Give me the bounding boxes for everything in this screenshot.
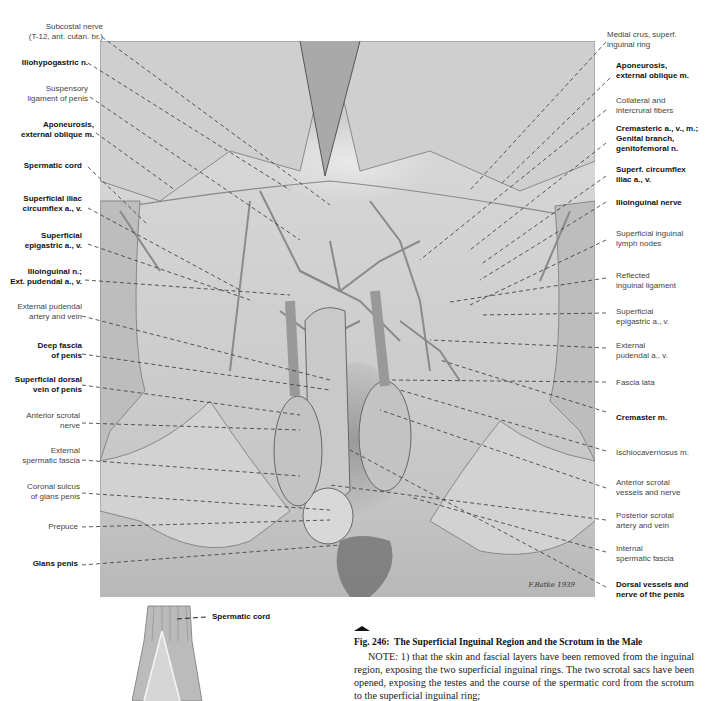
label-fascia-lata: Fascia lata — [616, 378, 655, 388]
label-superficial-epigastric-right: Superficial epigastric a., v. — [616, 307, 669, 327]
figure-caption-title: Fig. 246: The Superficial Inguinal Regio… — [354, 637, 642, 647]
anatomical-illustration: F.Batke 1939 — [100, 41, 595, 597]
label-superficial-epigastric-left: Superficial epigastric a., v. — [25, 231, 82, 251]
label-spermatic-cord: Spermatic cord — [24, 161, 82, 171]
spermatic-cord-inset-illustration — [132, 601, 207, 701]
figure-note-text: NOTE: 1) that the skin and fascial layer… — [354, 650, 694, 701]
figure-title: The Superficial Inguinal Region and the … — [394, 637, 642, 647]
inset-label-spermatic-cord: Spermatic cord — [212, 612, 270, 622]
label-superficial-inguinal-lymph-nodes: Superficial inguinal lymph nodes — [616, 229, 683, 249]
illustration-drawing — [100, 41, 595, 597]
label-aponeurosis-left: Aponeurosis, external oblique m. — [21, 120, 94, 140]
label-reflected-inguinal-ligament: Reflected inguinal ligament — [616, 271, 676, 291]
label-deep-fascia-penis: Deep fascia of penis — [38, 341, 82, 361]
label-dorsal-vessels-nerve: Dorsal vessels and nerve of the penis — [616, 580, 688, 600]
label-collateral-intercrural: Collateral and intercrural fibers — [616, 96, 673, 116]
label-superficial-iliac-circumflex: Superficial iliac circumflex a., v. — [23, 194, 82, 214]
label-coronal-sulcus: Coronal sulcus of glans penis — [27, 482, 80, 502]
label-superf-circumflex-iliac: Superf. circumflex iliac a., v. — [616, 165, 686, 185]
label-external-pudendal-right: External pudendal a., v. — [616, 341, 668, 361]
label-subcostal-nerve: Subcostal nerve (T-12, ant. cutan. br.) — [29, 22, 103, 42]
label-posterior-scrotal-artery: Posterior scrotal artery and vein — [616, 511, 674, 531]
label-suspensory-ligament: Suspensory ligament of penis — [28, 84, 88, 104]
artist-signature: F.Batke 1939 — [528, 581, 575, 589]
label-superficial-dorsal-vein: Superficial dorsal vein of penis — [15, 375, 82, 395]
label-iliohypogastric-n: Iliohypogastric n. — [22, 58, 88, 68]
label-aponeurosis-right: Aponeurosis, external oblique m. — [616, 61, 689, 81]
label-medial-crus: Medial crus, superf. inguinal ring — [607, 30, 677, 50]
label-anterior-scrotal-nerve: Anterior scrotal nerve — [26, 411, 80, 431]
label-prepuce: Prepuce — [48, 522, 78, 532]
label-ischiocavernosus: Ischiocavernosus m. — [616, 448, 689, 458]
label-ilioinguinal-nerve: Ilioinguinal nerve — [616, 198, 682, 208]
figure-note: NOTE: 1) that the skin and fascial layer… — [354, 650, 694, 701]
label-cremasteric-genital-branch: Cremasteric a., v., m.; Genital branch, … — [616, 124, 698, 154]
label-ilioinguinal-ext-pudendal: Ilioinguinal n.; Ext. pudendal a., v. — [10, 267, 82, 287]
label-glans-penis: Glans penis — [33, 559, 78, 569]
figure-number: Fig. 246: — [354, 637, 389, 647]
label-cremaster-m: Cremaster m. — [616, 413, 667, 423]
label-anterior-scrotal-vessels: Anterior scrotal vessels and nerve — [616, 478, 680, 498]
label-internal-spermatic-fascia: Internal spermatic fascia — [616, 544, 674, 564]
label-external-spermatic-fascia: External spermatic fascia — [22, 446, 80, 466]
label-external-pudendal-artery: External pudendal artery and vein — [18, 302, 83, 322]
caption-up-arrow-icon — [354, 626, 370, 631]
